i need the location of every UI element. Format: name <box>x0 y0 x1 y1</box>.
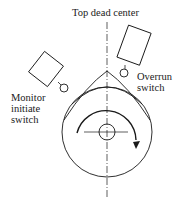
monitor-switch-roller <box>60 84 68 92</box>
rotation-arrowhead <box>133 141 140 149</box>
label-top-dead-center: Top dead center <box>72 7 139 18</box>
label-monitor-initiate-switch: Monitor initiate switch <box>11 92 45 125</box>
overrun-switch-roller <box>120 69 128 77</box>
monitor-switch-stem <box>58 82 61 85</box>
overrun-switch <box>117 25 151 65</box>
monitor-initiate-switch <box>29 51 64 86</box>
label-overrun-switch: Overrun switch <box>137 71 172 93</box>
rotation-arrow <box>77 111 136 140</box>
